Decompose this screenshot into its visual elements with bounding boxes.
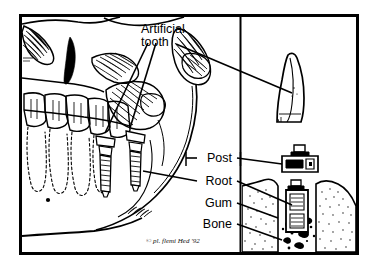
label-post: Post [207, 151, 233, 165]
label-gum: Gum [205, 196, 232, 210]
artist-signature: © pl. flemi Hed '92 [146, 237, 200, 245]
illustration-dot [46, 198, 50, 202]
label-bone: Bone [203, 217, 232, 231]
label-artificial-tooth-line2: tooth [141, 35, 169, 49]
dental-implant-diagram: Artificial tooth Post Root Gum Bone © pl… [0, 0, 373, 271]
label-artificial-tooth-line1: Artificial [141, 22, 185, 36]
label-root: Root [206, 174, 233, 188]
